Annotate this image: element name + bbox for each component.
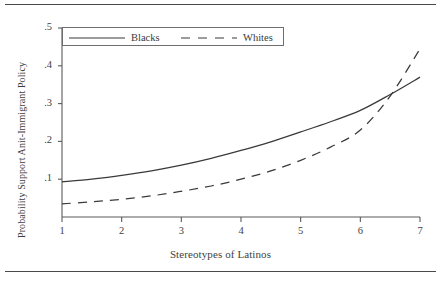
- x-axis-title: Stereotypes of Latinos: [0, 248, 441, 260]
- y-tick-label: .5: [32, 21, 52, 32]
- x-tick-label: 2: [112, 225, 132, 236]
- series-line-blacks: [62, 77, 420, 182]
- chart-legend: Blacks Whites: [62, 27, 284, 46]
- y-tick-label: .4: [32, 59, 52, 70]
- x-tick-label: 3: [171, 225, 191, 236]
- y-axis-ticks: [58, 28, 62, 179]
- legend-swatch-dashed: [181, 33, 237, 43]
- y-axis-title: Probability Support Anit-Immigrant Polic…: [16, 62, 27, 238]
- legend-label-whites: Whites: [243, 32, 273, 43]
- y-tick-label: .3: [32, 97, 52, 108]
- top-horizontal-rule: [5, 4, 436, 5]
- x-tick-label: 7: [410, 225, 430, 236]
- legend-entry-whites: Whites: [181, 28, 273, 47]
- y-tick-label: .1: [32, 172, 52, 183]
- legend-entry-blacks: Blacks: [69, 28, 160, 47]
- series-line-whites: [62, 49, 420, 204]
- bottom-horizontal-rule: [5, 271, 436, 272]
- x-tick-label: 5: [291, 225, 311, 236]
- y-tick-label: .2: [32, 134, 52, 145]
- legend-swatch-solid: [69, 33, 125, 43]
- x-tick-label: 4: [231, 225, 251, 236]
- x-tick-label: 6: [350, 225, 370, 236]
- legend-label-blacks: Blacks: [131, 32, 160, 43]
- chart-figure: Probability Support Anit-Immigrant Polic…: [0, 10, 441, 268]
- x-tick-label: 1: [52, 225, 72, 236]
- data-series-group: [62, 49, 420, 204]
- x-axis-ticks: [62, 217, 420, 222]
